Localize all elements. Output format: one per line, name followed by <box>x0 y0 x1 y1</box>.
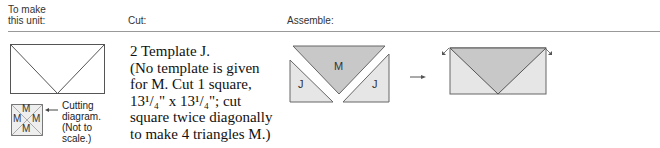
piece-label-j-left: J <box>298 78 304 90</box>
arrow-left-icon <box>45 107 59 113</box>
assembly-exploded-diagram <box>290 40 400 104</box>
header-make-unit: To make this unit: <box>8 4 46 26</box>
cut-line-6: to make 4 triangles M.) <box>130 126 272 143</box>
header-make-unit-line2: this unit: <box>8 15 46 26</box>
cut-line-4: 13¹/₄" x 13¹/₄"; cut <box>130 93 272 110</box>
cutting-diagram-caption: Cutting diagram. (Not to scale.) <box>62 100 101 144</box>
cutting-diagram-label-right: M <box>32 113 40 124</box>
piece-label-m: M <box>334 60 343 72</box>
caption-line3: (Not to <box>62 122 101 133</box>
header-divider <box>8 31 660 32</box>
header-assemble: Assemble: <box>287 15 334 26</box>
cut-line-2: (No template is given <box>130 60 272 77</box>
cut-instructions: 2 Template J. (No template is given for … <box>130 43 272 142</box>
cutting-diagram-label-top: M <box>22 103 30 114</box>
corner-arrow-right-icon <box>544 47 553 56</box>
header-make-unit-line1: To make <box>8 4 46 15</box>
arrow-right-icon <box>410 74 426 80</box>
caption-line1: Cutting <box>62 100 101 111</box>
cutting-diagram-label-left: M <box>13 113 21 124</box>
cutting-diagram-label-bottom: M <box>22 123 30 134</box>
cut-line-5: square twice diagonally <box>130 109 272 126</box>
corner-arrow-left-icon <box>441 47 450 56</box>
header-cut: Cut: <box>128 15 146 26</box>
assembled-unit-diagram <box>448 46 548 96</box>
piece-label-j-right: J <box>372 78 378 90</box>
cut-line-3: for M. Cut 1 square, <box>130 76 272 93</box>
caption-line2: diagram. <box>62 111 101 122</box>
cut-line-1: 2 Template J. <box>130 43 272 60</box>
caption-line4: scale.) <box>62 133 101 144</box>
finished-unit-diagram <box>10 44 105 94</box>
